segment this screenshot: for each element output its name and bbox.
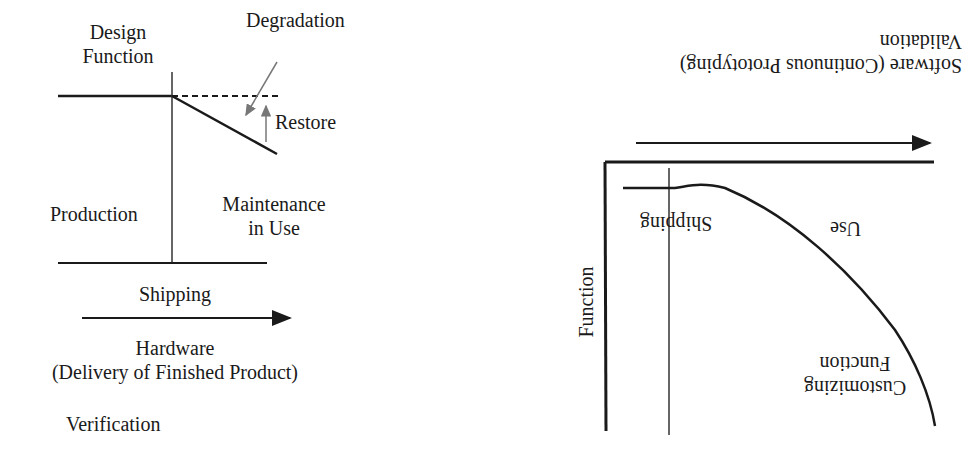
degradation-label: Degradation — [246, 8, 345, 32]
degradation-arrow — [246, 62, 277, 115]
shipping-label: Shipping — [100, 282, 250, 306]
use-label: Use — [830, 217, 861, 241]
restore-label: Restore — [275, 110, 336, 134]
design-function-label: Design Function — [58, 20, 178, 68]
hardware-label: Hardware (Delivery of Finished Product) — [20, 336, 330, 384]
maintenance-label: Maintenance in Use — [214, 192, 334, 240]
software-validation-label: Software (Continuous Prototyping) Valida… — [600, 30, 962, 78]
shipping-right-label: Shipping — [640, 212, 712, 236]
degradation-line — [172, 96, 277, 154]
function-axis-label: Function — [574, 266, 598, 337]
customizing-function-label: Customizing Function — [790, 352, 920, 400]
frame-left — [605, 162, 606, 431]
production-label: Production — [50, 202, 138, 226]
verification-label: Verification — [66, 412, 160, 436]
